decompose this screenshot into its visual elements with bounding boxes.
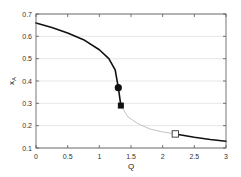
bifurcation-chart: 00.511.522.53 0.10.20.30.40.50.60.7 Q xA — [0, 0, 241, 177]
y-tick-label: 0.3 — [22, 100, 32, 107]
y-tick-label: 0.7 — [22, 11, 32, 18]
y-tick-label: 0.1 — [22, 145, 32, 152]
x-tick-label: 2.5 — [189, 153, 199, 160]
y-tick-label: 0.2 — [22, 122, 32, 129]
grid-lines — [36, 14, 226, 148]
y-tick-labels: 0.10.20.30.40.50.60.7 — [22, 11, 32, 152]
x-tick-label: 1 — [97, 153, 101, 160]
open-square-marker — [172, 131, 178, 137]
y-axis-title: xA — [7, 77, 17, 85]
x-axis-title: Q — [128, 162, 134, 171]
x-tick-labels: 00.511.522.53 — [34, 153, 228, 160]
data-series — [36, 23, 226, 141]
y-tick-label: 0.4 — [22, 78, 32, 85]
stable-branch-line — [36, 23, 118, 88]
y-tick-label: 0.6 — [22, 33, 32, 40]
x-tick-label: 2 — [161, 153, 165, 160]
limit-point-circle-marker — [115, 84, 122, 91]
y-tick-label: 0.5 — [22, 55, 32, 62]
x-tick-label: 1.5 — [126, 153, 136, 160]
unstable-branch-line — [121, 106, 175, 134]
y-axis-title-subscript: A — [11, 77, 17, 81]
x-tick-label: 0 — [34, 153, 38, 160]
filled-square-marker — [118, 103, 124, 109]
stable-branch-line — [175, 134, 226, 141]
x-tick-label: 3 — [224, 153, 228, 160]
x-tick-label: 0.5 — [63, 153, 73, 160]
